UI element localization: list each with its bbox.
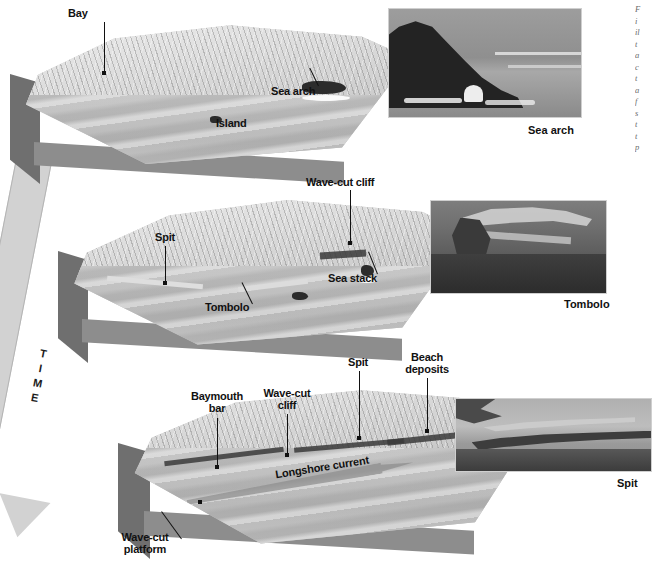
figure-caption-column: F i il t a c t a f s t t p xyxy=(635,4,659,154)
photo-sea-arch-surf-line-1 xyxy=(495,52,581,55)
photo-sea-arch-caption: Sea arch xyxy=(528,124,574,136)
caption-line-9: f xyxy=(635,96,659,108)
stage-2-ridge-texture xyxy=(74,195,468,277)
photo-sea-arch-opening xyxy=(464,85,483,102)
label-wave-cut-platform: Wave-cut platform xyxy=(110,532,180,555)
caption-line-13: p xyxy=(635,142,659,154)
photo-spit-foreground xyxy=(456,449,651,471)
label-bay: Bay xyxy=(68,8,88,20)
caption-line-7: t xyxy=(635,73,659,85)
label-spit: Spit xyxy=(155,232,175,244)
time-letter-e: E xyxy=(22,389,46,408)
photo-tombolo xyxy=(430,200,607,294)
leader-baymouth-bar xyxy=(217,418,218,466)
photo-tombolo-foreground xyxy=(431,254,606,293)
leader-dot-beach-deposits xyxy=(425,429,429,433)
stage-2-upland xyxy=(74,195,468,277)
leader-dot-wave-cut-cliff-2 xyxy=(285,453,289,457)
caption-line-6: c xyxy=(635,62,659,74)
time-arrow-head xyxy=(0,493,51,542)
stage-2-tombolo-rock xyxy=(292,292,308,300)
stage-1-upland xyxy=(26,22,410,105)
leader-dot-baymouth-bar xyxy=(215,465,219,469)
label-wave-cut-cliff: Wave-cut cliff xyxy=(306,177,374,189)
leader-dot-wave-cut-cliff xyxy=(348,241,352,245)
caption-line-4: t xyxy=(635,39,659,51)
photo-tombolo-caption: Tombolo xyxy=(564,298,610,310)
label-tombolo: Tombolo xyxy=(205,302,249,314)
photo-sea-arch xyxy=(388,8,582,118)
leader-dot-bay xyxy=(102,71,106,75)
caption-line-5: a xyxy=(635,50,659,62)
coastal-evolution-figure: T I M E Bay Sea ar xyxy=(0,0,659,586)
caption-line-1: F xyxy=(635,4,659,16)
photo-sea-arch-foam-2 xyxy=(485,100,535,105)
photo-spit-caption: Spit xyxy=(617,477,638,489)
label-island: Island xyxy=(216,118,247,130)
leader-bay xyxy=(104,22,105,72)
caption-line-3: il xyxy=(635,27,659,39)
caption-line-12: t xyxy=(635,131,659,143)
label-spit-2: Spit xyxy=(348,357,368,369)
label-wave-cut-cliff-2: Wave-cut cliff xyxy=(258,388,316,411)
label-sea-arch: Sea arch xyxy=(271,86,315,98)
stage-1-ridge-texture xyxy=(26,22,410,105)
photo-sea-arch-foam-1 xyxy=(404,98,462,103)
leader-spit-2 xyxy=(359,371,360,437)
leader-beach-deposits xyxy=(427,378,428,430)
caption-line-2: i xyxy=(635,16,659,28)
photo-spit xyxy=(455,398,652,472)
label-sea-stack: Sea stack xyxy=(328,273,377,285)
photo-sea-arch-surf-line-2 xyxy=(508,65,581,68)
caption-line-8: a xyxy=(635,85,659,97)
label-baymouth-bar: Baymouth bar xyxy=(188,391,246,414)
leader-dot-spit-2 xyxy=(357,436,361,440)
caption-line-10: s xyxy=(635,108,659,120)
caption-line-11: t xyxy=(635,119,659,131)
leader-dot-wave-cut-platform xyxy=(198,500,202,504)
time-axis-label: T I M E xyxy=(22,344,55,407)
leader-dot-spit xyxy=(163,281,167,285)
leader-wave-cut-cliff xyxy=(350,190,351,242)
leader-wave-cut-cliff-2 xyxy=(287,414,288,454)
label-beach-deposits: Beach deposits xyxy=(398,352,456,375)
leader-spit xyxy=(165,246,166,282)
